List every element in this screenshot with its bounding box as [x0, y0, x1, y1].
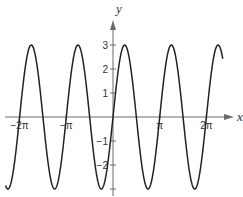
sine-plot: −2π−ππ2π321−1−2 x y [0, 0, 243, 197]
y-tick-label: −1 [97, 136, 109, 147]
y-tick-label: 3 [102, 40, 108, 51]
y-axis-arrow-icon [110, 20, 116, 30]
y-axis-label: y [114, 1, 122, 16]
y-tick-label: 1 [102, 88, 108, 99]
x-axis-label: x [236, 109, 243, 124]
y-tick-label: 2 [102, 64, 108, 75]
x-axis-arrow-icon [224, 114, 234, 120]
